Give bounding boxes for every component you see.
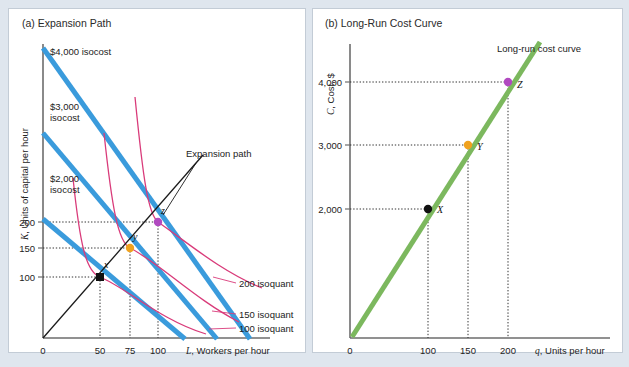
expansion-path-label: Expansion path xyxy=(186,148,252,159)
point-label-Y: Y xyxy=(477,141,484,152)
isocost-label-3000-line2: isocost xyxy=(50,112,80,123)
isoquant-label-100: 100 isoquant xyxy=(239,323,294,334)
panel-b-y-axis-title: C, Cost, $ xyxy=(325,73,336,115)
panel-a-xtick-label-100: 100 xyxy=(150,345,166,356)
isoquant-curve-100 xyxy=(73,178,206,334)
panel-b-xtick-label-100: 100 xyxy=(420,345,436,356)
panel-b-origin-label: 0 xyxy=(347,345,352,356)
panel-a-plot: x y z 200 150 100 0 50 75 100 L, Workers… xyxy=(19,44,294,356)
isoquant-100-leader xyxy=(209,328,236,329)
panel-b-ytick-label-2000: 2,000 xyxy=(318,204,342,215)
long-run-cost-curve-label: Long-run cost curve xyxy=(497,43,581,54)
panel-a-ytick-label-100: 100 xyxy=(19,272,35,283)
panel-b-ytick-label-3000: 3,000 xyxy=(318,140,342,151)
point-label-x: x xyxy=(103,259,109,270)
point-marker-y[interactable] xyxy=(126,244,134,252)
point-marker-x[interactable] xyxy=(96,273,104,281)
panel-b-xtick-label-150: 150 xyxy=(460,345,476,356)
isocost-label-2000-line1: $2,000 xyxy=(50,173,79,184)
figure-svg: x y z 200 150 100 0 50 75 100 L, Workers… xyxy=(0,0,629,367)
panel-a-x-axis-title: L, Workers per hour xyxy=(185,345,270,356)
panel-a-xtick-label-50: 50 xyxy=(95,345,106,356)
figure-container: (a) Expansion Path (b) Long-Run Cost Cur… xyxy=(0,0,629,367)
point-label-z: z xyxy=(160,205,165,216)
isocost-label-3000-line1: $3,000 xyxy=(50,101,79,112)
long-run-cost-curve-line xyxy=(352,42,540,337)
panel-a-xtick-label-75: 75 xyxy=(125,345,136,356)
point-label-Z: Z xyxy=(517,79,523,90)
isoquant-200-leader xyxy=(213,277,236,283)
panel-b-xtick-label-200: 200 xyxy=(500,345,516,356)
point-marker-X[interactable] xyxy=(424,205,432,213)
panel-a-y-axis-title: K, Units of capital per hour xyxy=(19,128,30,241)
isocost-label-2000-line2: isocost xyxy=(50,184,80,195)
isoquant-curve-200 xyxy=(135,97,262,288)
point-marker-Z[interactable] xyxy=(504,78,512,86)
panel-b-plot: X Y Z 4,000 3,000 2,000 0 100 150 200 q,… xyxy=(318,42,610,356)
isoquant-label-150: 150 isoquant xyxy=(239,309,294,320)
point-marker-Y[interactable] xyxy=(464,141,472,149)
panel-a-origin-label: 0 xyxy=(40,345,45,356)
expansion-path-leader xyxy=(163,163,196,215)
point-label-X: X xyxy=(436,204,444,215)
panel-b-x-axis-title: q, Units per hour xyxy=(535,345,605,356)
point-marker-z[interactable] xyxy=(154,218,162,226)
point-label-y: y xyxy=(132,231,138,242)
panel-a-ytick-label-150: 150 xyxy=(19,243,35,254)
isocost-label-4000: $4,000 isocost xyxy=(50,46,112,57)
isoquant-label-200: 200 isoquant xyxy=(239,278,294,289)
